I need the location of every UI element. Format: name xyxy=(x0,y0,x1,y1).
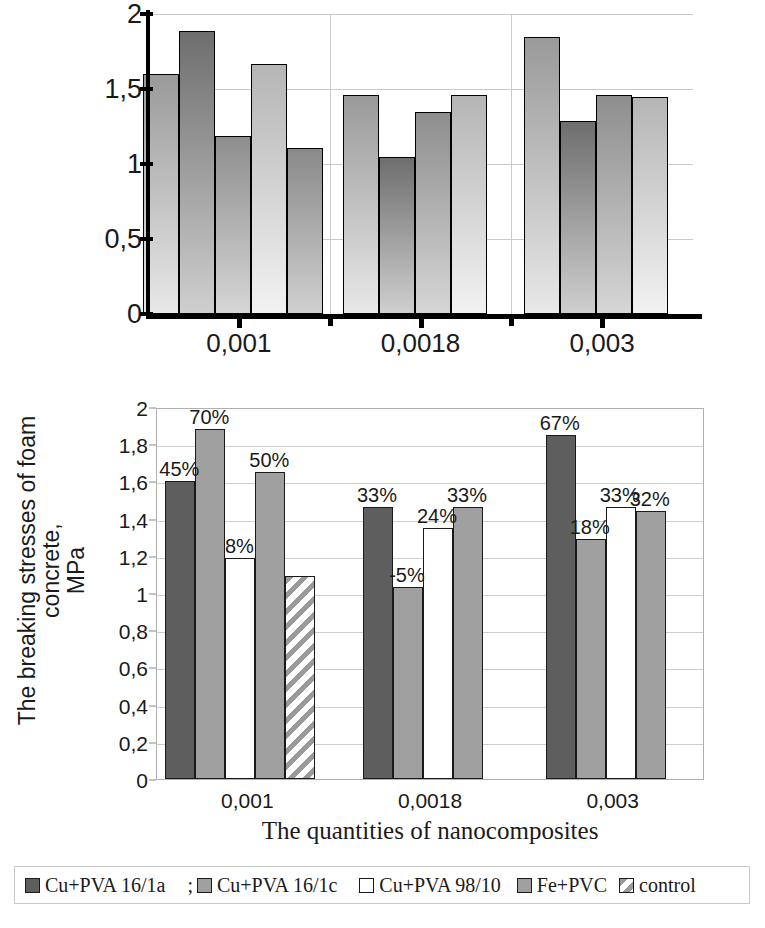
legend-item-cu-pva-16-1a[interactable]: Cu+PVA 16/1a xyxy=(25,875,165,895)
top-bar xyxy=(632,97,668,315)
y-axis-title: The breaking stresses of foam concrete, … xyxy=(15,371,88,771)
x-tick-label: 0,001 xyxy=(221,790,274,811)
top-bar-chart: 00,511,52 0,0010,00180,003 xyxy=(0,0,765,360)
legend-label: Cu+PVA 16/1a xyxy=(45,875,165,895)
bottom-bar xyxy=(606,507,636,779)
bar-value-label: 70% xyxy=(189,407,229,427)
bottom-bar xyxy=(195,429,225,779)
chart-page: 00,511,52 0,0010,00180,003 45%70%8%50%33… xyxy=(0,0,765,928)
top-bar xyxy=(287,148,323,315)
top-bar xyxy=(343,95,379,314)
x-tick-label: 0,001 xyxy=(206,330,271,356)
x-tick-mark xyxy=(419,316,424,328)
bottom-bar xyxy=(636,511,666,779)
top-bar xyxy=(179,31,215,315)
x-axis-title: The quantities of nanocomposites xyxy=(156,818,704,843)
y-tick-mark xyxy=(149,631,156,632)
y-tick-mark xyxy=(149,408,156,409)
legend-label: Cu+PVA 98/10 xyxy=(379,875,501,895)
y-tick-label: 1,5 xyxy=(104,76,142,103)
y-tick-mark xyxy=(149,556,156,557)
y-tick-mark xyxy=(140,312,153,316)
category-divider xyxy=(330,14,331,314)
bottom-bar xyxy=(453,507,483,779)
white-swatch xyxy=(359,878,374,893)
gridline xyxy=(148,89,693,90)
y-tick-label: 1,6 xyxy=(119,472,148,493)
bottom-plot-area xyxy=(156,408,704,780)
y-tick-label: 2 xyxy=(136,398,148,419)
y-tick-mark xyxy=(149,780,156,781)
dark-gray-swatch xyxy=(25,878,40,893)
top-bar xyxy=(560,121,596,315)
y-tick-label: 1,8 xyxy=(119,435,148,456)
y-tick-mark xyxy=(140,237,153,241)
bottom-bar xyxy=(423,528,453,779)
x-tick-mark xyxy=(600,316,605,328)
legend-label: control xyxy=(639,875,696,895)
top-plot-area xyxy=(148,14,693,314)
y-tick-mark xyxy=(149,445,156,446)
y-axis-title-line2: MPa xyxy=(63,547,89,594)
mid-gray-swatch xyxy=(197,878,212,893)
top-bar xyxy=(524,37,560,315)
y-tick-mark xyxy=(149,519,156,520)
y-tick-mark xyxy=(140,12,153,16)
hatch-swatch xyxy=(619,878,634,893)
y-tick-mark xyxy=(140,87,153,91)
bar-value-label: -5% xyxy=(389,565,425,585)
bottom-bar xyxy=(546,435,576,779)
legend-item-cu-pva-16-1c[interactable]: Cu+PVA 16/1c xyxy=(197,875,337,895)
mid-gray-swatch xyxy=(517,878,532,893)
x-tick-mark xyxy=(237,316,242,328)
bottom-bar-chart: 45%70%8%50%33%-5%24%33%67%18%33%32% 00,2… xyxy=(0,366,765,866)
bar-value-label: 67% xyxy=(540,413,580,433)
legend-label: Cu+PVA 16/1c xyxy=(217,875,337,895)
bar-value-label: 33% xyxy=(357,485,397,505)
y-tick-label: 1,2 xyxy=(119,546,148,567)
top-bar xyxy=(596,95,632,314)
bottom-bar xyxy=(165,481,195,779)
y-tick-label: 0,4 xyxy=(119,695,148,716)
legend-label: Fe+PVC xyxy=(537,875,607,895)
top-bar xyxy=(451,95,487,314)
y-tick-mark xyxy=(149,594,156,595)
y-tick-mark xyxy=(149,482,156,483)
top-bar xyxy=(379,157,415,315)
bar-value-label: 18% xyxy=(570,517,610,537)
y-tick-label: 0,5 xyxy=(104,226,142,253)
y-tick-label: 0 xyxy=(136,770,148,791)
x-tick-label: 0,0018 xyxy=(398,790,462,811)
bar-value-label: 24% xyxy=(417,506,457,526)
y-tick-label: 0,6 xyxy=(119,658,148,679)
gridline xyxy=(148,14,693,15)
y-tick-mark xyxy=(149,742,156,743)
category-divider xyxy=(511,14,512,314)
y-tick-mark xyxy=(149,668,156,669)
y-tick-label: 0,2 xyxy=(119,732,148,753)
bottom-bar xyxy=(363,507,393,779)
top-y-tick-labels: 00,511,52 xyxy=(100,0,142,330)
bottom-bar xyxy=(225,558,255,779)
y-tick-label: 0,8 xyxy=(119,621,148,642)
x-boundary-tick xyxy=(509,316,514,326)
legend-row: Cu+PVA 16/1a;Cu+PVA 16/1cCu+PVA 98/10Fe+… xyxy=(15,867,749,903)
legend-item-control[interactable]: control xyxy=(619,875,696,895)
x-tick-label: 0,003 xyxy=(570,330,635,356)
top-bar xyxy=(415,112,451,315)
x-tick-label: 0,0018 xyxy=(381,330,461,356)
legend-item-fe-pvc[interactable]: Fe+PVC xyxy=(517,875,607,895)
gridline xyxy=(157,446,703,447)
y-tick-label: 1 xyxy=(136,584,148,605)
bottom-bar xyxy=(393,587,423,779)
bar-value-label: 32% xyxy=(630,489,670,509)
bottom-y-tick-labels: 00,20,40,60,811,21,41,61,82 xyxy=(96,408,148,780)
bar-value-label: 33% xyxy=(447,485,487,505)
legend-item-cu-pva-98-10[interactable]: Cu+PVA 98/10 xyxy=(359,875,501,895)
top-bar xyxy=(215,136,251,315)
bar-value-label: 45% xyxy=(159,459,199,479)
y-tick-label: 1,4 xyxy=(119,509,148,530)
top-bar xyxy=(251,64,287,315)
y-tick-mark xyxy=(140,162,153,166)
x-boundary-tick xyxy=(328,316,333,326)
